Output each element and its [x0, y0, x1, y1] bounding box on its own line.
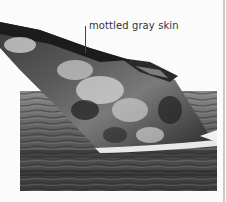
- annotation-label: mottled gray skin: [89, 20, 179, 31]
- figure: mottled gray skin: [0, 0, 226, 202]
- annotation-leader-line: [85, 26, 86, 53]
- page-edge-rule: [223, 0, 225, 202]
